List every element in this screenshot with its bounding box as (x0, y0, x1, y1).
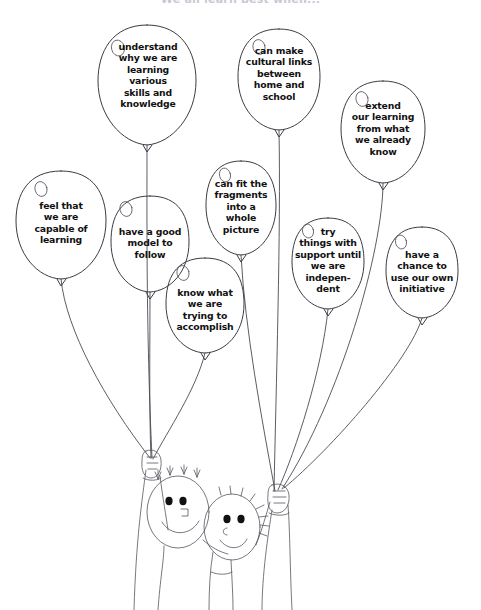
hair-tufts-left-child (155, 465, 200, 479)
string-fit-fragments (241, 255, 275, 491)
eye-left (165, 497, 172, 505)
balloon-good-model[interactable] (111, 196, 189, 299)
children-figures (134, 450, 292, 610)
balloon-fit-fragments[interactable] (206, 161, 276, 262)
poster-canvas: We all learn best when... (0, 0, 481, 610)
child-left (134, 450, 228, 610)
eye-left (223, 515, 230, 523)
balloon-cultural-links[interactable] (238, 29, 320, 137)
balloon-own-initiative[interactable] (386, 227, 458, 325)
balloon-illustration (0, 0, 481, 610)
child-right (204, 484, 292, 610)
balloons (16, 25, 458, 360)
balloon-strings (61, 130, 422, 491)
string-try-with-support (278, 309, 328, 490)
balloon-try-with-support[interactable] (292, 218, 364, 316)
string-extend-learning (282, 183, 383, 489)
string-feel-capable (61, 279, 150, 458)
string-cultural-links (274, 130, 279, 491)
balloon-understand-why[interactable] (98, 25, 196, 152)
balloon-know-what[interactable] (166, 258, 244, 360)
balloon-feel-capable[interactable] (16, 171, 106, 286)
balloon-extend-learning[interactable] (341, 81, 425, 190)
string-know-what (153, 353, 205, 459)
eye-right (179, 497, 186, 505)
eye-right (237, 515, 244, 523)
string-understand-why (147, 145, 152, 458)
string-own-initiative (284, 318, 422, 488)
